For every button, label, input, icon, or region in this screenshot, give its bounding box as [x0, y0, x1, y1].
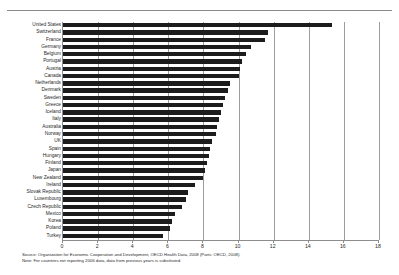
category-label: Turkey	[47, 233, 61, 238]
bar	[63, 183, 195, 187]
bar	[63, 212, 175, 216]
bar	[63, 125, 217, 129]
bar-row: Czech Republic	[63, 204, 379, 211]
category-label: Slovak Republic	[27, 189, 61, 194]
category-label: New Zealand	[33, 175, 61, 180]
bar	[63, 197, 186, 201]
bar	[63, 45, 251, 49]
x-tick-label: 6	[166, 243, 169, 249]
x-tick-label: 18	[375, 243, 381, 249]
bar	[63, 23, 332, 27]
gridline	[379, 22, 380, 240]
bar-row: United States	[63, 22, 379, 29]
category-label: Canada	[44, 73, 61, 78]
bar	[63, 88, 228, 92]
bar-row: Belgium	[63, 51, 379, 58]
data-note: Note: For countries not reporting 2006 d…	[22, 258, 181, 263]
x-tick-label: 10	[235, 243, 241, 249]
chart-page: United StatesSwitzerlandFranceGermanyBel…	[0, 0, 399, 275]
category-label: Denmark	[42, 87, 61, 92]
bar	[63, 176, 203, 180]
bar-row: Hungary	[63, 153, 379, 160]
category-label: UK	[54, 138, 61, 143]
bar	[63, 161, 207, 165]
bar	[63, 30, 268, 34]
bar	[63, 74, 239, 78]
category-label: United States	[32, 22, 61, 27]
category-label: Norway	[45, 131, 61, 136]
bar	[63, 81, 230, 85]
bar-row: UK	[63, 138, 379, 145]
category-label: France	[46, 37, 61, 42]
bar	[63, 226, 170, 230]
x-tick-label: 4	[131, 243, 134, 249]
bar-row: France	[63, 37, 379, 44]
category-label: Belgium	[44, 51, 61, 56]
bar-row: Norway	[63, 131, 379, 138]
category-label: Luxembourg	[34, 196, 61, 201]
x-tick-label: 2	[96, 243, 99, 249]
bar	[63, 59, 242, 63]
category-label: Czech Republic	[27, 204, 61, 209]
bar-row: Greece	[63, 102, 379, 109]
bar-row: Germany	[63, 44, 379, 51]
x-tick-label: 14	[305, 243, 311, 249]
category-label: Greece	[45, 102, 61, 107]
category-label: Iceland	[46, 109, 61, 114]
bar-row: Poland	[63, 225, 379, 232]
bar	[63, 147, 210, 151]
plot-area: United StatesSwitzerlandFranceGermanyBel…	[62, 22, 378, 240]
x-tick-label: 0	[61, 243, 64, 249]
bar	[63, 67, 240, 71]
category-label: Ireland	[46, 182, 61, 187]
bar-row: Luxembourg	[63, 196, 379, 203]
bar	[63, 139, 212, 143]
bar	[63, 154, 209, 158]
bar-row: Spain	[63, 146, 379, 153]
bar-row: Netherlands	[63, 80, 379, 87]
bar-row: Korea	[63, 218, 379, 225]
category-label: Hungary	[43, 153, 61, 158]
category-label: Finland	[45, 160, 61, 165]
bar-row: Denmark	[63, 87, 379, 94]
x-axis-line	[62, 240, 379, 241]
bar-row: Mexico	[63, 211, 379, 218]
bar-row: Ireland	[63, 182, 379, 189]
category-label: Korea	[48, 218, 61, 223]
x-tick-label: 12	[270, 243, 276, 249]
bar	[63, 103, 223, 107]
category-label: Portugal	[43, 58, 61, 63]
bar	[63, 132, 216, 136]
category-label: Japan	[48, 167, 61, 172]
category-label: Switzerland	[36, 29, 61, 34]
category-label: Spain	[49, 146, 61, 151]
bar	[63, 190, 188, 194]
bar	[63, 219, 172, 223]
x-tick-label: 8	[201, 243, 204, 249]
bar	[63, 96, 225, 100]
bar	[63, 205, 182, 209]
bar-row: Switzerland	[63, 29, 379, 36]
x-tick-label: 16	[340, 243, 346, 249]
bar-row: Portugal	[63, 58, 379, 65]
bar-row: New Zealand	[63, 175, 379, 182]
bar	[63, 38, 265, 42]
category-label: Australia	[42, 124, 61, 129]
clipped-title	[60, 0, 260, 3]
bar	[63, 168, 205, 172]
bar-row: Turkey	[63, 233, 379, 240]
bar-row: Finland	[63, 160, 379, 167]
bar-row: Canada	[63, 73, 379, 80]
bar-row: Sweden	[63, 95, 379, 102]
bar-row: Iceland	[63, 109, 379, 116]
category-label: Austria	[46, 66, 61, 71]
category-label: Poland	[46, 225, 61, 230]
bar-row: Italy	[63, 116, 379, 123]
bar	[63, 117, 219, 121]
bar-row: Japan	[63, 167, 379, 174]
category-label: Italy	[52, 116, 61, 121]
bar	[63, 234, 163, 238]
bar-row: Slovak Republic	[63, 189, 379, 196]
bar-row: Australia	[63, 124, 379, 131]
bar	[63, 110, 221, 114]
